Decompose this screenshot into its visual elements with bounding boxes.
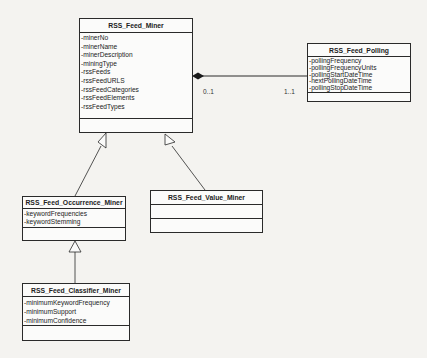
class-attributes: -pollingFrequency -pollingFrequencyUnits… <box>308 57 410 93</box>
attribute: -miningType <box>80 60 192 69</box>
class-name: RSS_Feed_Occurrence_Miner <box>23 197 125 209</box>
generalization-line-occurrence <box>75 146 101 196</box>
class-rss-feed-value-miner[interactable]: RSS_Feed_Value_Miner <box>150 190 263 233</box>
class-rss-feed-occurrence-miner[interactable]: RSS_Feed_Occurrence_Miner -keywordFreque… <box>22 196 126 241</box>
attribute: -minerName <box>80 43 192 52</box>
multiplicity-source: 0..1 <box>203 88 214 95</box>
class-rss-feed-classifier-miner[interactable]: RSS_Feed_Classifier_Miner -minimumKeywor… <box>22 283 130 341</box>
generalization-arrowhead-icon <box>98 133 106 148</box>
multiplicity-target: 1..1 <box>284 88 295 95</box>
class-name: RSS_Feed_Polling <box>308 44 410 57</box>
attribute: -minimumSupport <box>23 307 129 316</box>
class-rss-feed-polling[interactable]: RSS_Feed_Polling -pollingFrequency -poll… <box>307 43 411 102</box>
attribute: -rssFeedCategories <box>80 86 192 95</box>
class-name: RSS_Feed_Classifier_Miner <box>23 284 129 297</box>
attribute: -pollingStopDateTime <box>308 85 410 92</box>
class-attributes: -minimumKeywordFrequency -minimumSupport… <box>23 297 129 326</box>
attribute: -rssFeeds <box>80 68 192 77</box>
class-attributes <box>151 205 262 219</box>
generalization-arrowhead-icon <box>165 134 175 145</box>
attribute: -rssFeedURLS <box>80 77 192 86</box>
class-name: RSS_Feed_Value_Miner <box>151 191 262 205</box>
class-rss-feed-miner[interactable]: RSS_Feed_Miner -minerNo -minerName -mine… <box>79 18 193 133</box>
generalization-arrowhead-icon <box>69 241 81 252</box>
generalization-line-value <box>172 146 205 190</box>
class-attributes: -minerNo -minerName -minerDescription -m… <box>80 33 192 119</box>
class-attributes: -keywordFrequencies -keywordStemming <box>23 209 125 228</box>
attribute: -minerDescription <box>80 51 192 60</box>
attribute: -minimumConfidence <box>23 316 129 325</box>
attribute: -minimumKeywordFrequency <box>23 298 129 307</box>
attribute: -rssFeedTypes <box>80 103 192 112</box>
attribute: -minerNo <box>80 34 192 43</box>
attribute: -rssFeedElements <box>80 94 192 103</box>
attribute: -keywordStemming <box>23 218 125 226</box>
attribute: -keywordFrequencies <box>23 210 125 218</box>
class-name: RSS_Feed_Miner <box>80 19 192 33</box>
composition-diamond-icon <box>192 73 204 80</box>
